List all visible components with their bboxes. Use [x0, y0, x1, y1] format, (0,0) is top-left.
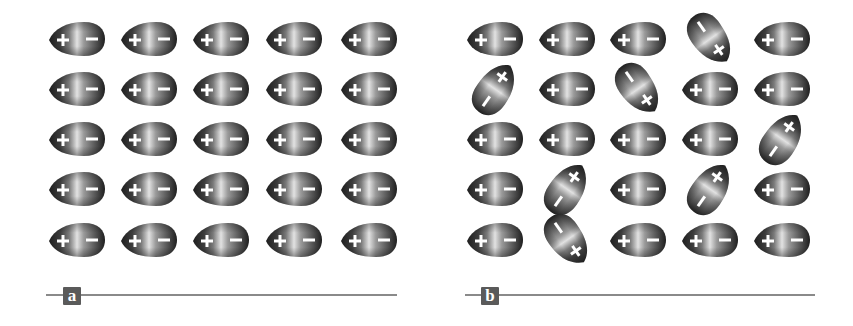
dipole-aligned [538, 21, 596, 57]
dipole-rotated [751, 105, 814, 173]
dipole-rotated [679, 155, 742, 223]
dipole-rotated [607, 55, 670, 123]
dipole-rotated [536, 206, 599, 274]
dipole-aligned [466, 121, 524, 157]
dipole-aligned [609, 222, 667, 258]
dipole-aligned [753, 71, 811, 107]
dipole-aligned [538, 121, 596, 157]
dipole-aligned [609, 121, 667, 157]
panel-b: b [0, 0, 420, 326]
dipole-aligned [753, 171, 811, 207]
panel-baseline [465, 294, 815, 296]
dipole-aligned [466, 222, 524, 258]
dipole-rotated [464, 55, 527, 123]
dipole-aligned [681, 71, 739, 107]
panel-label-b: b [481, 287, 499, 305]
dipole-aligned [466, 171, 524, 207]
dipole-aligned [466, 21, 524, 57]
dipole-aligned [753, 222, 811, 258]
dipole-rotated [679, 5, 742, 73]
dipole-aligned [753, 21, 811, 57]
dipole-aligned [538, 71, 596, 107]
dipole-aligned [609, 171, 667, 207]
dipole-aligned [609, 21, 667, 57]
dipole-aligned [681, 222, 739, 258]
dipole-aligned [681, 121, 739, 157]
